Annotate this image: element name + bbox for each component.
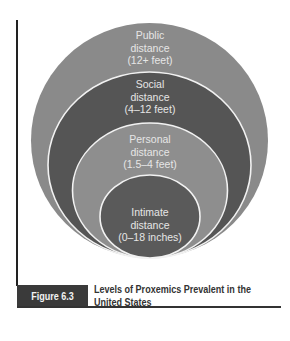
public-label-line3: (12+ feet) — [90, 54, 210, 67]
personal-label-line3: (1.5–4 feet) — [90, 158, 210, 171]
personal-label-line2: distance — [90, 146, 210, 159]
intimate-label-line3: (0–18 inches) — [90, 231, 210, 244]
personal-distance-label: Personal distance (1.5–4 feet) — [90, 133, 210, 171]
public-label-line2: distance — [90, 42, 210, 55]
intimate-distance-label: Intimate distance (0–18 inches) — [90, 206, 210, 244]
social-label-line3: (4–12 feet) — [90, 103, 210, 116]
caption-bottom-rule — [17, 306, 281, 308]
social-label-line2: distance — [90, 91, 210, 104]
figure-caption-line1: Levels of Proxemics Prevalent in the — [94, 283, 250, 296]
intimate-label-line1: Intimate — [90, 206, 210, 219]
public-distance-label: Public distance (12+ feet) — [90, 29, 210, 67]
public-label-line1: Public — [90, 29, 210, 42]
figure-number: Figure 6.3 — [23, 285, 81, 307]
social-label-line1: Social — [90, 78, 210, 91]
personal-label-line1: Personal — [90, 133, 210, 146]
intimate-label-line2: distance — [90, 219, 210, 232]
social-distance-label: Social distance (4–12 feet) — [90, 78, 210, 116]
figure-number-box: Figure 6.3 — [17, 285, 88, 307]
